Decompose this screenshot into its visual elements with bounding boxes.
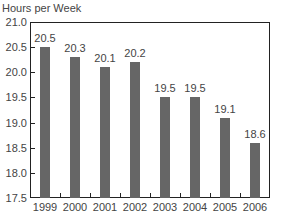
x-tick-label: 2004 bbox=[183, 201, 207, 213]
x-tick-mark bbox=[90, 193, 91, 198]
x-tick-label: 2005 bbox=[213, 201, 237, 213]
y-tick-label: 20.5 bbox=[0, 41, 27, 53]
value-label: 18.6 bbox=[244, 128, 265, 140]
bar-2005 bbox=[220, 118, 230, 198]
x-tick-mark bbox=[150, 193, 151, 198]
y-tick-mark bbox=[30, 173, 35, 174]
bar-2004 bbox=[190, 97, 200, 198]
value-label: 19.1 bbox=[214, 103, 235, 115]
bar-2001 bbox=[100, 67, 110, 198]
y-axis-label: Hours per Week bbox=[2, 2, 81, 14]
y-tick-mark bbox=[30, 123, 35, 124]
bar-2000 bbox=[70, 57, 80, 198]
y-tick-label: 18.5 bbox=[0, 142, 27, 154]
value-label: 20.1 bbox=[94, 52, 115, 64]
y-tick-mark bbox=[30, 97, 35, 98]
bar-2003 bbox=[160, 97, 170, 198]
value-label: 19.5 bbox=[154, 82, 175, 94]
x-tick-label: 2003 bbox=[153, 201, 177, 213]
x-tick-mark bbox=[210, 193, 211, 198]
x-tick-label: 2000 bbox=[63, 201, 87, 213]
x-tick-mark bbox=[180, 193, 181, 198]
value-label: 20.3 bbox=[64, 42, 85, 54]
y-tick-mark bbox=[30, 47, 35, 48]
x-tick-mark bbox=[60, 193, 61, 198]
value-label: 20.5 bbox=[34, 32, 55, 44]
bar-2006 bbox=[250, 143, 260, 198]
x-tick-label: 1999 bbox=[33, 201, 57, 213]
y-tick-mark bbox=[30, 72, 35, 73]
y-tick-label: 17.5 bbox=[0, 192, 27, 204]
y-tick-label: 19.0 bbox=[0, 117, 27, 129]
x-tick-mark bbox=[120, 193, 121, 198]
x-tick-mark bbox=[240, 193, 241, 198]
y-tick-label: 19.5 bbox=[0, 91, 27, 103]
bar-1999 bbox=[40, 47, 50, 198]
x-tick-label: 2006 bbox=[243, 201, 267, 213]
y-tick-label: 20.0 bbox=[0, 66, 27, 78]
y-tick-mark bbox=[30, 148, 35, 149]
bar-2002 bbox=[130, 62, 140, 198]
value-label: 20.2 bbox=[124, 47, 145, 59]
value-label: 19.5 bbox=[184, 82, 205, 94]
x-tick-label: 2001 bbox=[93, 201, 117, 213]
y-tick-label: 18.0 bbox=[0, 167, 27, 179]
y-tick-label: 21.0 bbox=[0, 16, 27, 28]
x-tick-label: 2002 bbox=[123, 201, 147, 213]
